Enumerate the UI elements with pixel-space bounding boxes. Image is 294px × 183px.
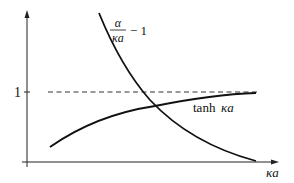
x-axis-label: κa	[266, 165, 279, 180]
y-tick-label-1: 1	[14, 85, 21, 100]
y-axis-arrow-icon	[25, 10, 30, 18]
curve2-label-var: κa	[221, 100, 234, 115]
chart-canvas: 1 α κa − 1 tanh κa κa	[0, 0, 294, 183]
curve1-label: α κa − 1	[110, 16, 147, 45]
curve2-label-prefix: tanh	[193, 100, 216, 115]
curve1-label-numerator: α	[115, 16, 122, 30]
x-axis	[22, 160, 279, 165]
curve2-label: tanh κa	[193, 100, 234, 115]
x-axis-arrow-icon	[271, 160, 279, 165]
figure: 1 α κa − 1 tanh κa κa	[0, 0, 294, 183]
y-axis	[24, 10, 30, 167]
curve1-label-suffix: − 1	[130, 23, 147, 38]
curve1-label-denominator: κa	[112, 31, 124, 45]
